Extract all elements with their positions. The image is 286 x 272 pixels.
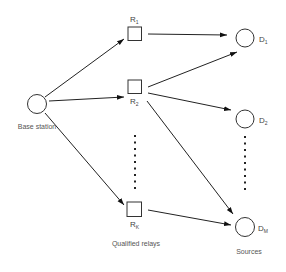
edge-bs-r2	[49, 97, 124, 101]
base-station-label: Base station	[18, 123, 57, 130]
source-node-d2: D2	[236, 110, 268, 128]
edge-bs-rk	[45, 113, 124, 205]
source-node-d1: D1	[236, 29, 268, 47]
source-circle-icon	[236, 110, 254, 128]
edge-r2-d2	[148, 93, 231, 110]
edge-bs-r1	[45, 39, 124, 97]
edge-r2-d1	[148, 52, 237, 87]
relay-node-rk: RK	[127, 202, 142, 230]
edges	[45, 34, 237, 225]
edge-rk-dm	[148, 210, 231, 225]
edge-r1-d1	[148, 34, 227, 35]
relay-label-rk: RK	[130, 220, 140, 230]
source-label-d2: D2	[259, 116, 268, 126]
relay-node-r1: R1	[128, 15, 142, 41]
source-ellipsis-dots	[244, 136, 246, 190]
sources-caption: Sources	[236, 248, 262, 255]
relay-ellipsis-dots	[134, 135, 136, 189]
relay-square-icon	[128, 80, 142, 94]
source-node-dm: DM	[236, 218, 268, 237]
source-circle-icon	[236, 29, 254, 47]
source-label-dm: DM	[258, 224, 268, 234]
relays-caption: Qualified relays	[112, 240, 161, 248]
relay-square-icon	[128, 27, 142, 41]
source-label-d1: D1	[259, 35, 268, 45]
source-circle-icon	[236, 218, 255, 237]
relay-square-icon	[127, 202, 142, 217]
base-station-circle-icon	[28, 95, 47, 114]
edge-r2-dm	[147, 101, 233, 214]
relay-label-r1: R1	[130, 15, 139, 25]
base-station-node: Base station	[18, 95, 57, 131]
relay-label-r2: R2	[130, 97, 139, 107]
relay-network-diagram: Base station R1 R2 RK Qualified relays	[0, 0, 286, 272]
relay-node-r2: R2	[128, 80, 142, 107]
